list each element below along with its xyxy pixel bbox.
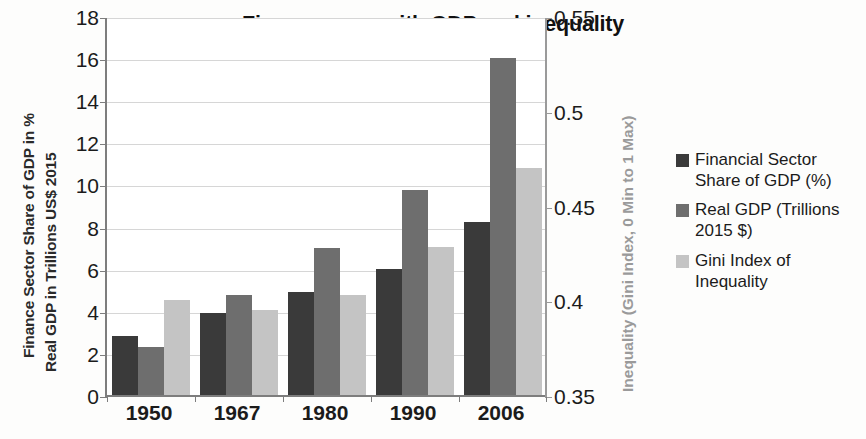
right-axis-tick: [545, 113, 552, 114]
bar: [340, 295, 366, 395]
legend-item[interactable]: Financial Sector Share of GDP (%): [676, 150, 862, 191]
left-axis-tick: [100, 18, 107, 19]
left-axis-tick-label: 18: [54, 7, 99, 28]
gridline: [107, 186, 545, 187]
bar: [314, 248, 340, 395]
left-axis-tick-label: 14: [54, 91, 99, 112]
left-axis-tick-label: 12: [54, 133, 99, 154]
left-axis-tick-label: 16: [54, 49, 99, 70]
left-axis-tick: [100, 144, 107, 145]
right-axis-tick-label: 0.45: [554, 197, 610, 218]
gridline: [107, 18, 545, 19]
legend-swatch-icon: [676, 204, 689, 217]
left-axis-tick-label: 0: [54, 386, 99, 407]
chart-legend: Financial Sector Share of GDP (%)Real GD…: [676, 150, 862, 301]
x-axis-label: 1980: [280, 401, 370, 425]
left-axis-tick: [100, 102, 107, 103]
bar: [464, 222, 490, 395]
left-axis-tick: [100, 313, 107, 314]
x-axis-label: 1990: [368, 401, 458, 425]
right-axis-tick-label: 0.35: [554, 386, 610, 407]
bar: [200, 313, 226, 395]
plot-area: 024681012141618 0.350.40.450.50.55: [105, 18, 545, 397]
x-axis-tick: [546, 395, 547, 402]
legend-swatch-icon: [676, 154, 689, 167]
bar: [516, 168, 542, 395]
left-axis-tick-label: 4: [54, 302, 99, 323]
right-axis-tick-label: 0.55: [554, 7, 610, 28]
gridline: [107, 144, 545, 145]
bar: [226, 295, 252, 395]
left-axis-tick: [100, 271, 107, 272]
bar: [164, 300, 190, 395]
bar: [138, 347, 164, 395]
right-axis-tick: [545, 208, 552, 209]
left-axis-tick: [100, 186, 107, 187]
left-axis-tick: [100, 229, 107, 230]
left-axis-title-line1: Finance Sector Share of GDP in %: [20, 113, 38, 358]
gridline: [107, 60, 545, 61]
legend-label: Gini Index of Inequality: [695, 251, 862, 292]
left-axis-tick: [100, 355, 107, 356]
legend-label: Real GDP (Trillions 2015 $): [695, 200, 862, 241]
bar: [252, 310, 278, 395]
right-axis-tick-label: 0.5: [554, 102, 610, 123]
left-axis-tick: [100, 397, 107, 398]
right-axis-tick-label: 0.4: [554, 291, 610, 312]
left-axis-tick-label: 10: [54, 175, 99, 196]
bar: [402, 190, 428, 395]
left-axis-tick-label: 8: [54, 218, 99, 239]
right-axis-tick: [545, 18, 552, 19]
right-axis-title: Inequality (Gini Index, 0 Min to 1 Max): [619, 116, 637, 392]
legend-swatch-icon: [676, 255, 689, 268]
left-axis-tick: [100, 60, 107, 61]
gridline: [107, 102, 545, 103]
legend-item[interactable]: Real GDP (Trillions 2015 $): [676, 200, 862, 241]
left-axis-tick-label: 2: [54, 344, 99, 365]
legend-item[interactable]: Gini Index of Inequality: [676, 251, 862, 292]
bar: [490, 58, 516, 395]
legend-label: Financial Sector Share of GDP (%): [695, 150, 862, 191]
x-axis-label: 2006: [456, 401, 546, 425]
left-axis-tick-label: 6: [54, 260, 99, 281]
x-axis-label: 1967: [192, 401, 282, 425]
x-axis-label: 1950: [104, 401, 194, 425]
bar: [428, 247, 454, 395]
right-axis-tick: [545, 302, 552, 303]
bar: [288, 292, 314, 395]
bar: [112, 336, 138, 395]
bar: [376, 269, 402, 395]
chart-figure: Finance Sector Share of GDP in % Real GD…: [0, 0, 866, 439]
